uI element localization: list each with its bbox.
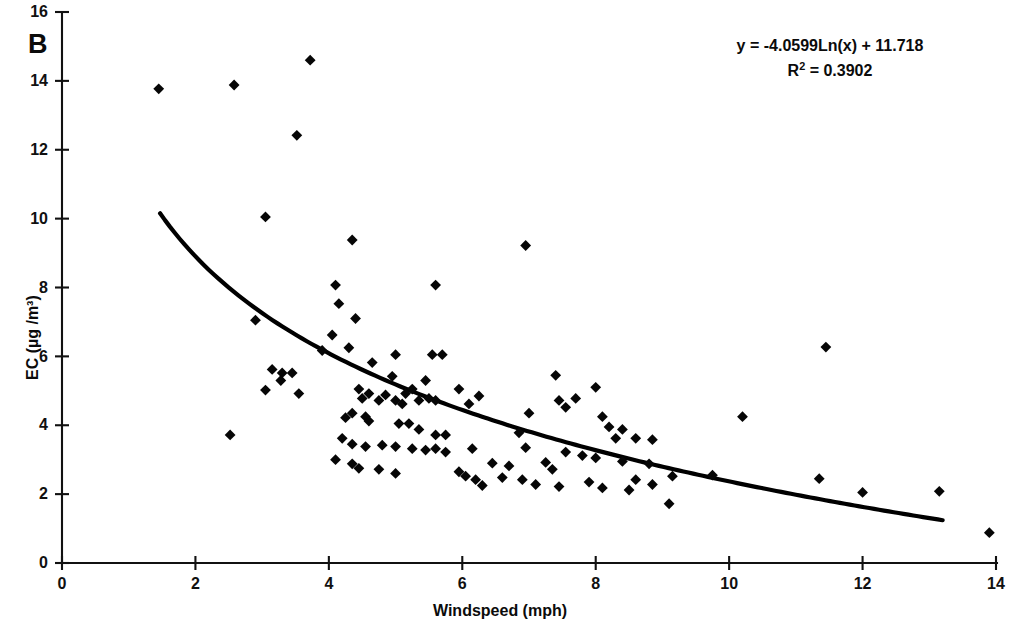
scatter-point xyxy=(550,370,561,381)
scatter-point xyxy=(647,434,658,445)
y-tick-label: 6 xyxy=(39,348,48,365)
scatter-point xyxy=(597,411,608,422)
scatter-point xyxy=(437,349,448,360)
scatter-point xyxy=(467,443,478,454)
scatter-point xyxy=(584,477,595,488)
scatter-point xyxy=(260,385,271,396)
scatter-point xyxy=(407,443,418,454)
scatter-point xyxy=(857,487,868,498)
y-axis-ticks: 0246810121416 xyxy=(30,3,69,571)
scatter-point xyxy=(530,479,541,490)
scatter-point xyxy=(333,298,344,309)
scatter-point xyxy=(630,433,641,444)
scatter-point xyxy=(597,483,608,494)
y-tick-label: 2 xyxy=(39,485,48,502)
y-tick-label: 14 xyxy=(30,72,48,89)
scatter-point xyxy=(390,468,401,479)
scatter-point xyxy=(420,445,431,456)
scatter-point xyxy=(560,402,571,413)
scatter-point xyxy=(570,393,581,404)
scatter-point xyxy=(367,357,378,368)
x-tick-label: 6 xyxy=(458,575,467,592)
scatter-point xyxy=(360,441,371,452)
scatter-point xyxy=(590,382,601,393)
scatter-point xyxy=(353,384,364,395)
scatter-point xyxy=(630,474,641,485)
scatter-point xyxy=(260,212,271,223)
scatter-point xyxy=(430,443,441,454)
scatter-point xyxy=(440,447,451,458)
scatter-point xyxy=(474,391,485,402)
scatter-point xyxy=(394,418,405,429)
scatter-point xyxy=(347,439,358,450)
axes xyxy=(62,12,997,563)
scatter-point xyxy=(517,474,528,485)
scatter-point xyxy=(487,458,498,469)
scatter-point xyxy=(554,395,565,406)
scatter-point xyxy=(373,464,384,475)
scatter-point xyxy=(427,349,438,360)
scatter-point xyxy=(229,80,240,91)
scatter-point xyxy=(617,424,628,435)
scatter-point xyxy=(153,83,164,94)
scatter-point xyxy=(420,375,431,386)
x-axis-ticks: 02468101214 xyxy=(58,556,1005,592)
scatter-point xyxy=(327,330,338,341)
scatter-point xyxy=(664,498,675,509)
scatter-point xyxy=(610,433,621,444)
scatter-point xyxy=(520,240,531,251)
scatter-point xyxy=(540,457,551,468)
scatter-point xyxy=(934,486,945,497)
scatter-point xyxy=(464,399,475,410)
scatter-point xyxy=(337,433,348,444)
scatter-points xyxy=(153,55,994,538)
scatter-point xyxy=(497,472,508,483)
x-tick-label: 4 xyxy=(324,575,333,592)
x-tick-label: 10 xyxy=(720,575,738,592)
scatter-point xyxy=(275,375,286,386)
x-tick-label: 8 xyxy=(591,575,600,592)
plot-area: 0246810121416 02468101214 xyxy=(0,0,1009,628)
scatter-point xyxy=(520,442,531,453)
scatter-point xyxy=(291,130,302,141)
scatter-point xyxy=(430,429,441,440)
scatter-point xyxy=(737,411,748,422)
scatter-point xyxy=(554,481,565,492)
scatter-point xyxy=(414,424,425,435)
scatter-point xyxy=(377,440,388,451)
scatter-point xyxy=(504,460,515,471)
x-tick-label: 0 xyxy=(58,575,67,592)
scatter-point xyxy=(644,458,655,469)
y-tick-label: 0 xyxy=(39,554,48,571)
scatter-point xyxy=(820,342,831,353)
scatter-point xyxy=(624,485,635,496)
scatter-point xyxy=(390,441,401,452)
scatter-point xyxy=(350,313,361,324)
scatter-point xyxy=(305,55,316,66)
scatter-point xyxy=(287,368,298,379)
y-tick-label: 8 xyxy=(39,279,48,296)
y-tick-label: 4 xyxy=(39,416,48,433)
scatter-point xyxy=(430,280,441,291)
scatter-point xyxy=(347,235,358,246)
scatter-point xyxy=(667,471,678,482)
scatter-point xyxy=(343,342,354,353)
scatter-point xyxy=(440,429,451,440)
scatter-point xyxy=(404,418,415,429)
y-tick-label: 10 xyxy=(30,210,48,227)
scatter-point xyxy=(250,315,261,326)
chart-figure: B EC (µg /m³) Windspeed (mph) y = -4.059… xyxy=(0,0,1009,628)
scatter-point xyxy=(330,280,341,291)
scatter-point xyxy=(577,450,588,461)
x-tick-label: 12 xyxy=(854,575,872,592)
scatter-point xyxy=(984,527,995,538)
scatter-point xyxy=(390,349,401,360)
x-tick-label: 2 xyxy=(191,575,200,592)
y-tick-label: 16 xyxy=(30,3,48,20)
regression-trend-line xyxy=(160,213,943,520)
scatter-point xyxy=(524,408,535,419)
scatter-point xyxy=(330,454,341,465)
scatter-point xyxy=(267,364,278,375)
x-tick-label: 14 xyxy=(987,575,1005,592)
scatter-point xyxy=(293,388,304,399)
